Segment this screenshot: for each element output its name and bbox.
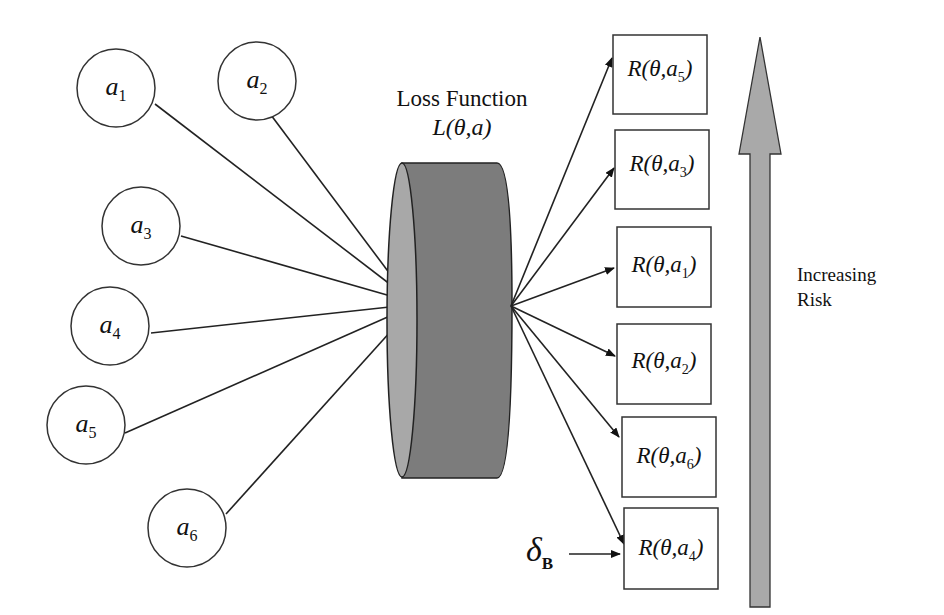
action-label-a3: a3 [111, 210, 171, 243]
action-circles [47, 42, 296, 567]
risk-label-a1: R(θ,a1) [617, 252, 711, 282]
risk-label-a3: R(θ,a3) [615, 151, 709, 181]
risk-label-a5: R(θ,a5) [613, 56, 707, 86]
action-label-a1: a1 [86, 72, 146, 105]
input-arrows [125, 103, 410, 514]
loss-function-symbol: L(θ,a) [400, 114, 524, 141]
risk-boxes [613, 35, 718, 589]
action-label-a5: a5 [56, 409, 116, 442]
action-label-a6: a6 [157, 512, 217, 545]
risk-label-a6: R(θ,a6) [622, 443, 716, 473]
bayes-decision-label: δB [526, 531, 553, 574]
output-arrows [511, 58, 624, 554]
loss-function-cylinder [387, 163, 512, 478]
risk-label-a4: R(θ,a4) [624, 535, 718, 565]
increasing-risk-arrow [739, 37, 781, 607]
loss-function-title: Loss Function [362, 86, 562, 112]
increasing-risk-label: Increasing Risk [797, 262, 876, 312]
action-label-a2: a2 [227, 65, 287, 98]
risk-label-a2: R(θ,a2) [617, 348, 711, 378]
action-label-a4: a4 [80, 310, 140, 343]
